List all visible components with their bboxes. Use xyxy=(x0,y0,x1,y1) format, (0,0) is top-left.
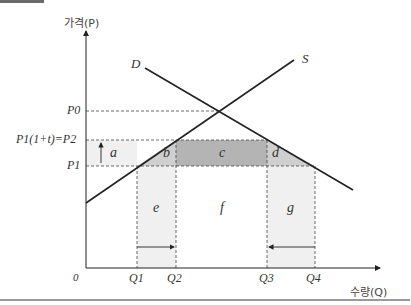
p0-label: P0 xyxy=(67,103,80,118)
p2-label: P1(1+t)=P2 xyxy=(16,132,76,147)
area-b-label: b xyxy=(163,145,170,161)
area-e xyxy=(137,166,176,268)
supply-label: S xyxy=(302,51,309,67)
area-d-label: d xyxy=(272,145,279,161)
area-e-label: e xyxy=(153,200,159,216)
area-g-label: g xyxy=(287,200,294,216)
demand-label: D xyxy=(131,56,140,72)
area-c-label: c xyxy=(219,145,225,161)
area-g xyxy=(267,166,315,268)
x-axis-label: 수량(Q) xyxy=(350,283,387,299)
area-a-label: a xyxy=(110,145,117,161)
q4-label: Q4 xyxy=(306,271,321,286)
y-axis-label: 가격(P) xyxy=(64,14,99,30)
q1-label: Q1 xyxy=(129,271,144,286)
p1-label: P1 xyxy=(67,158,80,173)
origin-label: 0 xyxy=(73,271,79,283)
area-f-label: f xyxy=(220,200,224,216)
supply-demand-diagram xyxy=(0,0,411,305)
supply-curve xyxy=(86,60,294,203)
q3-label: Q3 xyxy=(259,271,274,286)
q2-label: Q2 xyxy=(167,271,182,286)
bottom-divider xyxy=(0,299,410,301)
area-b xyxy=(137,140,176,166)
